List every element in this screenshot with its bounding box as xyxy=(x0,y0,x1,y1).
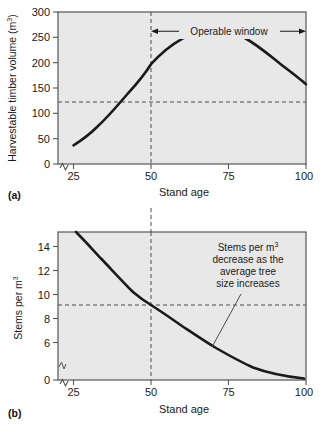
figure-container: Operable window 300 250 200 150 100 50 0… xyxy=(0,0,322,436)
x-axis-b: 25 50 75 100 xyxy=(67,380,313,398)
y-axis-title-b: Stems per m3 xyxy=(12,276,24,340)
stems-annotation-line-3: average tree xyxy=(220,266,277,277)
panel-label-a: (a) xyxy=(8,189,21,201)
chart-panel-b: Stems per m3 decrease as the average tre… xyxy=(0,208,322,436)
x-ticklabel-b-1: 50 xyxy=(145,386,157,398)
y-ticklabel-a-6: 0 xyxy=(44,158,50,170)
y-ticklabel-b-1: 12 xyxy=(38,265,50,277)
y-ticklabel-a-4: 100 xyxy=(32,107,50,119)
y-ticklabel-b-0: 14 xyxy=(38,241,50,253)
y-axis-a: 300 250 200 150 100 50 0 xyxy=(32,6,58,170)
x-ticklabel-a-2: 75 xyxy=(222,170,234,182)
x-ticklabel-b-0: 25 xyxy=(67,386,79,398)
y-ticklabel-a-2: 200 xyxy=(32,57,50,69)
y-axis-title-a-suffix: ) xyxy=(6,14,18,18)
y-axis-title-a-main: Harvestable timber volume (m xyxy=(6,21,18,161)
y-ticklabel-a-5: 50 xyxy=(38,133,50,145)
y-axis-title-a: Harvestable timber volume (m3) xyxy=(6,14,18,161)
stems-annotation-line-4: size increases xyxy=(216,278,279,289)
y-ticklabel-b-2: 10 xyxy=(38,289,50,301)
stems-annotation-line-2: decrease as the xyxy=(212,254,284,265)
x-axis-title-a: Stand age xyxy=(159,186,209,198)
x-ticklabel-a-0: 25 xyxy=(67,170,79,182)
x-ticklabel-b-2: 75 xyxy=(222,386,234,398)
x-axis-title-b: Stand age xyxy=(159,403,209,415)
x-ticklabel-a-1: 50 xyxy=(145,170,157,182)
y-ticklabel-a-3: 150 xyxy=(32,82,50,94)
stems-annotation-line-1-sup: 3 xyxy=(274,241,278,248)
x-ticklabel-a-3: 100 xyxy=(295,170,313,182)
y-axis-title-b-sup: 3 xyxy=(12,276,19,280)
y-axis-title-b-main: Stems per m xyxy=(12,280,24,340)
stems-annotation-line-1-main: Stems per m xyxy=(218,242,275,253)
chart-panel-a: Operable window 300 250 200 150 100 50 0… xyxy=(0,0,322,208)
x-ticklabel-b-3: 100 xyxy=(295,386,313,398)
operable-window-label: Operable window xyxy=(190,26,268,37)
panel-label-b: (b) xyxy=(8,407,21,419)
y-ticklabel-a-0: 300 xyxy=(32,6,50,18)
y-ticklabel-b-4: 6 xyxy=(44,337,50,349)
y-ticklabel-b-3: 8 xyxy=(44,313,50,325)
y-ticklabel-b-5: 0 xyxy=(44,374,50,386)
x-axis-a: 25 50 75 100 xyxy=(67,164,313,182)
y-ticklabel-a-1: 250 xyxy=(32,31,50,43)
stems-annotation-line-1: Stems per m3 xyxy=(218,241,279,253)
